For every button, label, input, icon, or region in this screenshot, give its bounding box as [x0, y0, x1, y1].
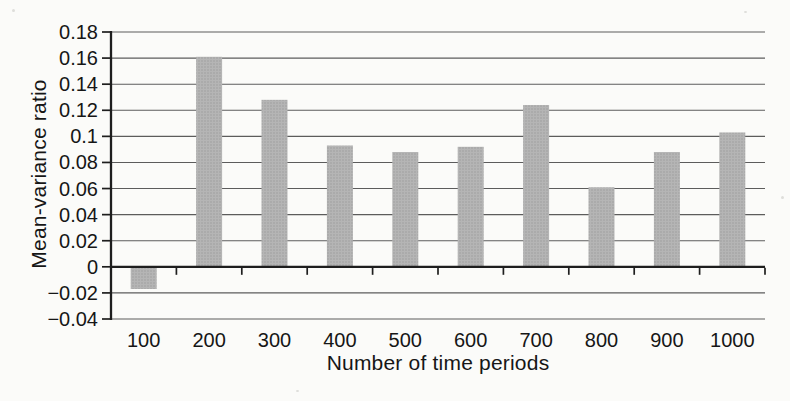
y-tick-label: 0.16	[59, 47, 98, 69]
bar-1000	[719, 132, 745, 266]
x-category-label: 1000	[710, 329, 755, 351]
bar-200	[196, 57, 222, 267]
y-tick-label: 0	[87, 256, 98, 278]
x-category-label: 200	[192, 329, 225, 351]
y-tick-label: 0.12	[59, 99, 98, 121]
y-tick-label: 0.14	[59, 73, 98, 95]
scanned-bar-chart-figure: 0.180.160.140.120.10.080.060.040.020−0.0…	[0, 0, 790, 401]
y-tick-label: −0.02	[47, 282, 98, 304]
scan-speck	[296, 390, 299, 392]
bar-800	[589, 187, 615, 267]
y-tick-label: 0.18	[59, 21, 98, 43]
bar-600	[458, 147, 484, 267]
y-tick-label: 0.1	[70, 125, 98, 147]
x-category-label: 900	[650, 329, 683, 351]
x-category-label: 400	[323, 329, 356, 351]
bar-700	[523, 105, 549, 267]
scan-speck	[744, 11, 747, 13]
y-tick-label: −0.04	[47, 308, 98, 330]
y-tick-label: 0.02	[59, 230, 98, 252]
x-category-label: 600	[454, 329, 487, 351]
x-category-label: 700	[519, 329, 552, 351]
y-tick-label: 0.08	[59, 151, 98, 173]
bar-300	[262, 100, 288, 267]
scan-speck	[781, 196, 784, 199]
plot-area: 0.180.160.140.120.10.080.060.040.020−0.0…	[0, 0, 790, 401]
x-category-label: 100	[127, 329, 160, 351]
bar-900	[654, 152, 680, 267]
x-category-label: 800	[585, 329, 618, 351]
x-category-label: 300	[258, 329, 291, 351]
bar-500	[392, 152, 418, 267]
scan-speck	[12, 9, 15, 12]
y-tick-label: 0.04	[59, 204, 98, 226]
x-axis-title: Number of time periods	[111, 351, 765, 375]
y-tick-label: 0.06	[59, 178, 98, 200]
x-category-label: 500	[389, 329, 422, 351]
y-axis-title: Mean-variance ratio	[27, 79, 51, 268]
bar-100	[131, 267, 157, 289]
bar-400	[327, 145, 353, 266]
